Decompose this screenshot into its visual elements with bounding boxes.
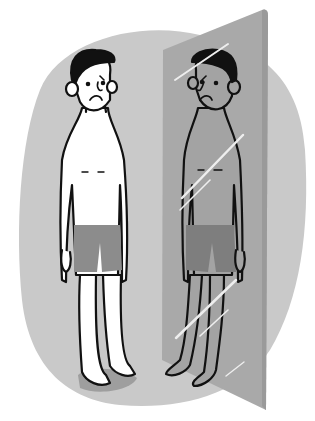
right-ear [107,81,117,93]
reflection-right-hand [235,250,245,272]
mirror-scene-svg [0,0,315,421]
illustration [0,0,315,421]
left-eye [87,83,89,85]
reflection-right-eye [215,82,217,84]
left-hand [61,250,71,272]
reflection-left-eye [201,81,203,83]
reflection-left-ear [188,77,198,89]
left-ear [66,82,78,96]
right-eye [102,82,104,84]
